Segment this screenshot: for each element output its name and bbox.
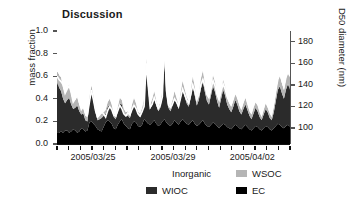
axis-left-tick-label: 0.0 [26,138,48,148]
axis-bottom-tick [278,146,279,150]
axis-bottom-tick [91,146,92,150]
axis-left-tick [53,121,57,122]
axis-left-tick [53,30,57,31]
chart-legend: Inorganic WSOC WIOC EC [128,168,338,202]
legend-label-wsoc: WSOC [252,168,282,179]
axis-bottom-tick [220,146,221,150]
axis-left-tick [53,76,57,77]
axis-right-title: D50 diameter (nm) [337,0,348,108]
axis-right-tick-label: 100 [298,122,322,132]
axis-left-tick [53,98,57,99]
legend-swatch-wsoc-icon [236,170,247,177]
figure-root: Discussion 0.00.20.40.60.81.0 1001201401… [0,0,351,211]
axis-left-title: mass fraction [26,3,37,113]
axis-bottom-tick-label: 2005/03/25 [56,152,130,162]
axis-right-tick-label: 180 [298,36,322,46]
axis-bottom-tick [161,146,162,150]
axis-left-tick [53,143,57,144]
chart-title: Discussion [62,8,123,20]
axis-bottom-tick-label: 2005/04/02 [215,152,289,162]
axis-bottom-tick [196,146,197,150]
legend-item-wioc[interactable]: WIOC [146,185,188,196]
axis-bottom-tick [185,146,186,150]
axis-bottom-tick [80,146,81,150]
axis-bottom-tick [243,146,244,150]
axis-bottom-tick [115,146,116,150]
axis-bottom-tick [289,146,290,150]
axis-right-tick-label: 160 [298,57,322,67]
legend-swatch-ec-icon [236,187,247,194]
axis-right-tick [291,41,295,42]
legend-swatch-inorganic-icon [156,170,167,177]
axis-right-tick [291,84,295,85]
axis-bottom-tick [254,146,255,150]
axis-right-tick-label: 120 [298,100,322,110]
axis-bottom-tick [126,146,127,150]
axis-right-tick [291,63,295,64]
chart-plot-area [57,31,290,144]
axis-left-tick-label: 0.2 [26,115,48,125]
axis-bottom-tick [103,146,104,150]
legend-item-ec[interactable]: EC [236,185,265,196]
axis-right-tick [291,106,295,107]
axis-bottom-tick [266,146,267,150]
axis-right-tick [291,127,295,128]
axis-bottom-tick [56,146,57,150]
axis-right-tick-label: 140 [298,79,322,89]
axis-bottom-tick-label: 2005/03/29 [136,152,210,162]
axis-bottom-tick [208,146,209,150]
legend-item-inorganic[interactable]: Inorganic [156,168,211,179]
axis-bottom-tick [150,146,151,150]
axis-bottom-tick [68,146,69,150]
legend-label-ec: EC [252,185,265,196]
axis-left-tick [53,53,57,54]
legend-label-inorganic: Inorganic [172,168,211,179]
legend-swatch-wioc-icon [146,187,157,194]
legend-item-wsoc[interactable]: WSOC [236,168,282,179]
axis-bottom-tick [173,146,174,150]
axis-bottom-tick [231,146,232,150]
axis-bottom-tick [138,146,139,150]
legend-label-wioc: WIOC [162,185,188,196]
